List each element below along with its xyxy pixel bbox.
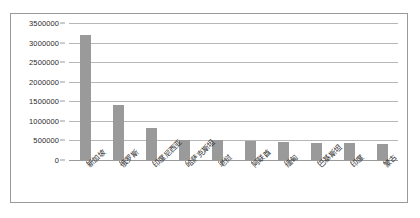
y-axis-tick-mark (60, 120, 65, 121)
y-axis-tick-label: 3000000 (29, 38, 59, 47)
y-axis-tick-label: 1000000 (29, 116, 59, 125)
plot-area (69, 23, 398, 160)
chart-frame: 0500000100000015000002000000250000030000… (10, 13, 408, 203)
y-axis-tick-label: 2500000 (29, 58, 59, 67)
y-axis-tick-mark (60, 81, 65, 82)
bar-chart: 0500000100000015000002000000250000030000… (11, 14, 407, 202)
y-axis-tick-mark (60, 23, 65, 24)
bar-series (69, 23, 398, 160)
y-axis-tick-label: 500000 (33, 136, 59, 145)
y-axis-tick-labels: 0500000100000015000002000000250000030000… (11, 23, 65, 160)
y-axis-tick-mark (60, 42, 65, 43)
y-axis-tick-mark (60, 160, 65, 161)
y-axis-tick-label: 0 (55, 156, 59, 165)
y-axis-tick-label: 2000000 (29, 77, 59, 86)
bar (113, 105, 124, 160)
y-axis-tick-mark (60, 62, 65, 63)
x-axis-category-labels: 新加坡俄罗斯印度尼西亚哈萨克斯坦老挝阿联酋缅甸巴基斯坦印度蒙古 (69, 162, 398, 202)
bar (80, 35, 91, 160)
y-axis-tick-mark (60, 101, 65, 102)
y-axis-tick-label: 1500000 (29, 97, 59, 106)
y-axis-tick-label: 3500000 (29, 19, 59, 28)
y-axis-tick-mark (60, 140, 65, 141)
